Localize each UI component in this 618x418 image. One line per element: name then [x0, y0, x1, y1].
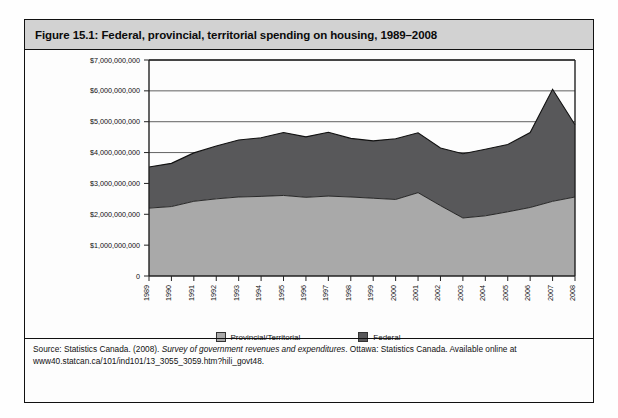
y-axis-tick-label: $4,000,000,000	[90, 148, 140, 157]
y-axis-tick-label: $5,000,000,000	[90, 117, 140, 126]
x-axis-tick-label: 1994	[254, 285, 263, 301]
figure-source-area: Source: Statistics Canada. (2008). Surve…	[25, 338, 593, 370]
x-axis-ticks: 1989199019911992199319941995199619971998…	[142, 276, 577, 301]
y-axis-tick-label: $1,000,000,000	[90, 241, 140, 250]
x-axis-tick-label: 2005	[501, 285, 510, 301]
source-italic-title: Survey of government revenues and expend…	[162, 344, 346, 354]
y-axis-ticks: $7,000,000,000$6,000,000,000$5,000,000,0…	[90, 56, 149, 281]
page-canvas: Figure 15.1: Federal, provincial, territ…	[0, 0, 618, 418]
figure-container: Figure 15.1: Federal, provincial, territ…	[24, 19, 594, 403]
x-axis-tick-label: 1995	[277, 285, 286, 301]
x-axis-tick-label: 1991	[187, 285, 196, 301]
x-axis-tick-label: 1997	[321, 285, 330, 301]
series-areas-group	[149, 89, 575, 276]
y-axis-tick-label: $2,000,000,000	[90, 210, 140, 219]
x-axis-tick-label: 1999	[366, 285, 375, 301]
x-axis-tick-label: 2007	[546, 285, 555, 301]
x-axis-tick-label: 1993	[232, 285, 241, 301]
x-axis-tick-label: 2001	[411, 285, 420, 301]
figure-title: Figure 15.1: Federal, provincial, territ…	[35, 29, 437, 41]
x-axis-tick-label: 2008	[568, 285, 577, 301]
x-axis-tick-label: 2002	[433, 285, 442, 301]
x-axis-tick-label: 1996	[299, 285, 308, 301]
figure-body: $7,000,000,000$6,000,000,000$5,000,000,0…	[25, 50, 593, 370]
y-axis-tick-label: $6,000,000,000	[90, 86, 140, 95]
x-axis-tick-label: 1989	[142, 285, 151, 301]
y-axis-tick-label: 0	[136, 272, 140, 281]
y-axis-tick-label: $3,000,000,000	[90, 179, 140, 188]
source-prefix: Source: Statistics Canada. (2008).	[33, 344, 162, 354]
stacked-area-chart: $7,000,000,000$6,000,000,000$5,000,000,0…	[25, 50, 591, 336]
x-axis-tick-label: 1992	[209, 285, 218, 301]
x-axis-tick-label: 2003	[456, 285, 465, 301]
x-axis-tick-label: 2004	[478, 285, 487, 301]
x-axis-tick-label: 1998	[344, 285, 353, 301]
x-axis-tick-label: 2006	[523, 285, 532, 301]
figure-source-text: Source: Statistics Canada. (2008). Surve…	[33, 344, 585, 367]
y-axis-tick-label: $7,000,000,000	[90, 56, 140, 65]
x-axis-tick-label: 1990	[164, 285, 173, 301]
figure-header-band: Figure 15.1: Federal, provincial, territ…	[25, 20, 593, 50]
chart-plot-area: $7,000,000,000$6,000,000,000$5,000,000,0…	[25, 50, 591, 370]
x-axis-tick-label: 2000	[389, 285, 398, 301]
